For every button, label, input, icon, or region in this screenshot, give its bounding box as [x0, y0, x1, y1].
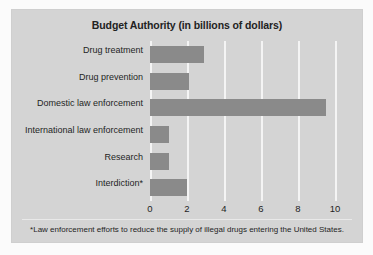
bar [150, 99, 326, 116]
bar [150, 153, 169, 170]
gridline-10 [335, 41, 337, 201]
category-label: Domestic law enforcement [37, 98, 143, 108]
bar-row: International law enforcement [150, 121, 335, 148]
category-label: Research [104, 152, 143, 162]
bar [150, 73, 189, 90]
x-tick-label: 4 [221, 203, 226, 214]
x-tick-label: 0 [147, 203, 152, 214]
x-tick-label: 8 [295, 203, 300, 214]
bar [150, 179, 187, 196]
plot-area: Drug treatmentDrug preventionDomestic la… [150, 41, 335, 201]
category-label: International law enforcement [25, 125, 143, 135]
x-tick-label: 2 [184, 203, 189, 214]
category-label: Drug prevention [79, 72, 143, 82]
category-label: Drug treatment [83, 45, 143, 55]
bar-row: Drug treatment [150, 41, 335, 68]
chart-screenshot: Budget Authority (in billions of dollars… [0, 0, 373, 255]
x-tick-label: 10 [330, 203, 341, 214]
bar-row: Interdiction* [150, 174, 335, 201]
category-label: Interdiction* [95, 178, 143, 188]
bar-row: Research [150, 148, 335, 175]
bar [150, 126, 169, 143]
bar-series: Drug treatmentDrug preventionDomestic la… [150, 41, 335, 201]
bar [150, 46, 204, 63]
bar-row: Domestic law enforcement [150, 94, 335, 121]
chart-panel: Budget Authority (in billions of dollars… [11, 9, 363, 243]
x-axis: 0246810 [150, 203, 335, 217]
bar-row: Drug prevention [150, 68, 335, 95]
footnote: *Law enforcement efforts to reduce the s… [12, 225, 362, 234]
chart-title: Budget Authority (in billions of dollars… [12, 19, 362, 31]
divider [22, 219, 352, 220]
x-tick-label: 6 [258, 203, 263, 214]
